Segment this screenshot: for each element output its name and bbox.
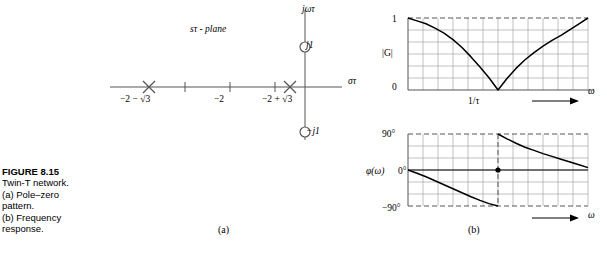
s-plane-label: sτ - plane bbox=[190, 24, 226, 34]
subfigure-label-b: (b) bbox=[468, 224, 480, 235]
magnitude-axis-label: |G| bbox=[382, 48, 393, 58]
phase-discontinuity-dot bbox=[495, 167, 500, 172]
zero-label-lower: −j1 bbox=[306, 126, 320, 136]
phase-xaxis-label: ω bbox=[588, 210, 595, 220]
phase-canvas bbox=[382, 118, 604, 230]
caption-line-3: pattern. bbox=[2, 200, 112, 211]
real-axis-label: στ bbox=[348, 76, 356, 86]
real-tick-label-1: −2 − √3 bbox=[120, 94, 150, 104]
magnitude-ytick-0: 0 bbox=[392, 82, 397, 92]
caption-line-2: (a) Pole–zero bbox=[2, 189, 112, 200]
magnitude-ytick-1: 1 bbox=[392, 14, 397, 24]
magnitude-response-plot: 1 0 |G| 1/τ ω bbox=[382, 4, 604, 112]
real-tick-label-2: −2 bbox=[214, 94, 224, 104]
magnitude-xaxis-label: ω bbox=[588, 86, 595, 96]
phase-ytick-zero: 0° bbox=[398, 166, 407, 176]
pole-zero-plot: sτ - plane στ jωτ j1 −j1 −2 − √3 −2 −2 +… bbox=[110, 2, 370, 142]
phase-axis-label: φ(ω) bbox=[366, 166, 384, 176]
zero-label-upper: j1 bbox=[306, 40, 313, 50]
imaginary-axis-label: jωτ bbox=[302, 4, 315, 14]
phase-ytick-minus90: −90° bbox=[382, 203, 401, 213]
omega-arrow bbox=[532, 98, 579, 105]
phase-ytick-plus90: 90° bbox=[382, 129, 395, 139]
omega-arrow bbox=[532, 215, 579, 222]
caption-line-4: (b) Frequency bbox=[2, 212, 112, 223]
caption-line-5: response. bbox=[2, 223, 112, 234]
real-tick-label-3: −2 + √3 bbox=[262, 94, 292, 104]
phase-response-plot: 90° 0° −90° φ(ω) ω bbox=[382, 118, 604, 230]
subfigure-label-a: (a) bbox=[218, 224, 229, 235]
caption-line-1: Twin-T network. bbox=[2, 177, 112, 188]
figure-8-15: FIGURE 8.15 Twin-T network. (a) Pole–zer… bbox=[0, 0, 607, 257]
magnitude-canvas bbox=[382, 4, 604, 112]
figure-number: FIGURE 8.15 bbox=[2, 166, 112, 177]
figure-caption: FIGURE 8.15 Twin-T network. (a) Pole–zer… bbox=[2, 166, 112, 234]
magnitude-xtick-notch: 1/τ bbox=[468, 96, 479, 106]
pole-zero-canvas bbox=[110, 2, 370, 142]
